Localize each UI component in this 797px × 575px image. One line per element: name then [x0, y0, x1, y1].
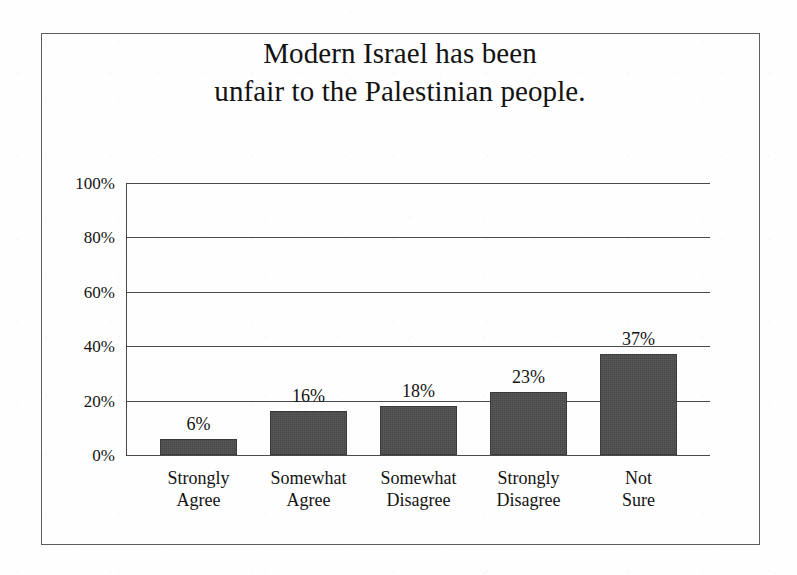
- x-label-1: SomewhatAgree: [247, 467, 371, 511]
- chart-title-line-1: Modern Israel has been: [60, 34, 740, 72]
- x-label-0: StronglyAgree: [137, 467, 261, 511]
- gridline-0: [126, 455, 710, 456]
- x-label-3: StronglyDisagree: [467, 467, 591, 511]
- bar-value-label-3: 23%: [484, 368, 574, 386]
- bar-2: [380, 406, 457, 455]
- chart-title: Modern Israel has been unfair to the Pal…: [60, 34, 740, 110]
- y-tick-label-100: 100%: [45, 175, 115, 192]
- bar-value-label-4: 37%: [594, 330, 684, 348]
- gridline-80: [126, 237, 710, 238]
- gridline-60: [126, 292, 710, 293]
- bar-value-label-0: 6%: [154, 415, 244, 433]
- chart-title-line-2: unfair to the Palestinian people.: [60, 72, 740, 110]
- y-axis-line: [126, 183, 127, 455]
- x-label-3-line-0: Strongly: [467, 467, 591, 489]
- scanned-page: Modern Israel has been unfair to the Pal…: [0, 0, 797, 575]
- x-label-4-line-1: Sure: [577, 489, 701, 511]
- x-label-4-line-0: Not: [577, 467, 701, 489]
- x-label-2-line-0: Somewhat: [357, 467, 481, 489]
- x-label-1-line-1: Agree: [247, 489, 371, 511]
- x-label-1-line-0: Somewhat: [247, 467, 371, 489]
- y-tick-label-0: 0%: [45, 447, 115, 464]
- x-label-3-line-1: Disagree: [467, 489, 591, 511]
- bar-value-label-2: 18%: [374, 382, 464, 400]
- bar-3: [490, 392, 567, 455]
- x-label-0-line-1: Agree: [137, 489, 261, 511]
- bar-4: [600, 354, 677, 455]
- bar-1: [270, 411, 347, 455]
- y-tick-label-80: 80%: [45, 229, 115, 246]
- y-tick-label-40: 40%: [45, 338, 115, 355]
- gridline-100: [126, 183, 710, 184]
- y-tick-label-20: 20%: [45, 393, 115, 410]
- bar-0: [160, 439, 237, 455]
- x-label-0-line-0: Strongly: [137, 467, 261, 489]
- bar-value-label-1: 16%: [264, 387, 354, 405]
- y-tick-label-60: 60%: [45, 284, 115, 301]
- x-label-2: SomewhatDisagree: [357, 467, 481, 511]
- x-label-2-line-1: Disagree: [357, 489, 481, 511]
- x-label-4: NotSure: [577, 467, 701, 511]
